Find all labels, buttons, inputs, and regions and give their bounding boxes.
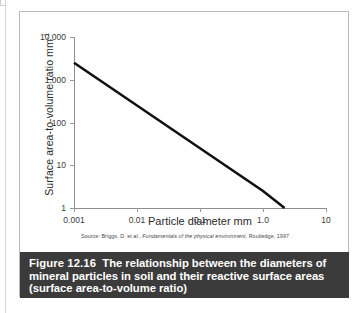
figure-caption-text: Figure 12.16 The relationship between th… [29, 257, 341, 295]
y-axis-title: Surface area-to-volume ratio mm-1 [43, 24, 56, 204]
x-tick [74, 208, 75, 212]
figure-caption-bar: Figure 12.16 The relationship between th… [20, 252, 349, 298]
y-tick-label: 1 [61, 203, 73, 213]
y-tick-label: 10 [57, 160, 73, 170]
source-note: Source: Briggs, D. et al., Fundamentals … [20, 233, 350, 239]
plot-region: 0.0010.010.11.010 1101001,00010,000 [74, 37, 326, 208]
chart-area: Surface area-to-volume ratio mm-1 0.0010… [20, 12, 350, 234]
figure-caption-label: Figure 12.16 [29, 257, 96, 269]
source-prefix: Source: Briggs, D. et al., [81, 233, 142, 239]
y-tick-label: 100 [52, 118, 73, 128]
page-corner-mark-top [0, 5, 6, 6]
source-suffix: , Routledge, 1997 [246, 233, 289, 239]
x-axis-title: Particle diameter mm [74, 215, 326, 227]
x-tick [137, 208, 138, 212]
x-tick [200, 208, 201, 212]
x-tick [263, 208, 264, 212]
x-tick [326, 208, 327, 212]
figure-card: Surface area-to-volume ratio mm-1 0.0010… [19, 11, 349, 297]
y-tick-label: 1,000 [45, 75, 73, 85]
page-edge-line [5, 0, 6, 313]
source-title: Fundamentals of the physical environment [142, 233, 245, 239]
data-line [74, 37, 326, 208]
y-tick-label: 10,000 [40, 32, 73, 42]
